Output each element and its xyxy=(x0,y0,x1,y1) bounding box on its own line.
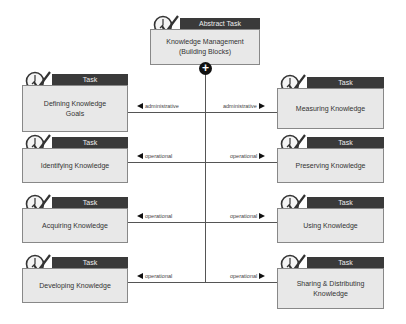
task-title: Defining Knowledge Goals xyxy=(22,85,128,132)
relation-text: operational xyxy=(145,213,172,219)
relation-text: operational xyxy=(230,273,257,279)
task-title: Developing Knowledge xyxy=(22,268,128,303)
connector-left-2 xyxy=(128,162,205,163)
relation-label-left-4: operational xyxy=(137,273,172,279)
arrow-left-icon xyxy=(137,213,143,219)
arrow-left-icon xyxy=(137,273,143,279)
task-title: Sharing & Distributing Knowledge xyxy=(277,268,384,309)
task-header: Task xyxy=(52,197,128,208)
relation-label-left-2: operational xyxy=(137,153,172,159)
connector-left-4 xyxy=(128,282,205,283)
task-box-right-4[interactable]: Task Sharing & Distributing Knowledge xyxy=(277,257,384,309)
relation-label-left-1: administrative xyxy=(137,103,179,109)
plus-circle-icon[interactable]: + xyxy=(199,62,212,75)
connector-right-3 xyxy=(205,222,277,223)
task-box-right-2[interactable]: Task Preserving Knowledge xyxy=(277,137,384,183)
relation-text: operational xyxy=(230,153,257,159)
root-task-header: Abstract Task xyxy=(180,18,260,29)
task-box-left-1[interactable]: Task Defining Knowledge Goals xyxy=(22,74,128,132)
relation-text: operational xyxy=(230,213,257,219)
task-title: Acquiring Knowledge xyxy=(22,208,128,243)
arrow-right-icon xyxy=(259,213,265,219)
root-task-box[interactable]: Abstract Task Knowledge Management (Buil… xyxy=(150,18,260,65)
arrow-left-icon xyxy=(137,103,143,109)
task-header: Task xyxy=(307,197,384,208)
relation-text: operational xyxy=(145,273,172,279)
relation-label-left-3: operational xyxy=(137,213,172,219)
task-title: Measuring Knowledge xyxy=(277,88,384,129)
task-title: Preserving Knowledge xyxy=(277,148,384,183)
relation-text: administrative xyxy=(223,103,257,109)
task-header: Task xyxy=(52,137,128,148)
task-header: Task xyxy=(52,74,128,85)
relation-label-right-4: operational xyxy=(230,273,265,279)
arrow-right-icon xyxy=(259,273,265,279)
arrow-left-icon xyxy=(137,153,143,159)
task-header: Task xyxy=(52,257,128,268)
connector-left-1 xyxy=(128,112,205,113)
task-box-left-3[interactable]: Task Acquiring Knowledge xyxy=(22,197,128,243)
task-header: Task xyxy=(307,77,384,88)
trunk-line xyxy=(205,66,206,283)
task-header: Task xyxy=(307,137,384,148)
relation-text: administrative xyxy=(145,103,179,109)
task-box-left-2[interactable]: Task Identifying Knowledge xyxy=(22,137,128,183)
task-box-right-1[interactable]: Task Measuring Knowledge xyxy=(277,77,384,129)
task-header: Task xyxy=(307,257,384,268)
connector-right-4 xyxy=(205,282,277,283)
arrow-right-icon xyxy=(259,153,265,159)
connector-left-3 xyxy=(128,222,205,223)
task-title: Using Knowledge xyxy=(277,208,384,243)
relation-label-right-1: administrative xyxy=(223,103,265,109)
task-box-right-3[interactable]: Task Using Knowledge xyxy=(277,197,384,243)
task-title: Identifying Knowledge xyxy=(22,148,128,183)
connector-right-1 xyxy=(205,112,277,113)
relation-label-right-3: operational xyxy=(230,213,265,219)
root-task-title: Knowledge Management (Building Blocks) xyxy=(150,29,260,65)
task-box-left-4[interactable]: Task Developing Knowledge xyxy=(22,257,128,303)
relation-label-right-2: operational xyxy=(230,153,265,159)
relation-text: operational xyxy=(145,153,172,159)
arrow-right-icon xyxy=(259,103,265,109)
connector-right-2 xyxy=(205,162,277,163)
